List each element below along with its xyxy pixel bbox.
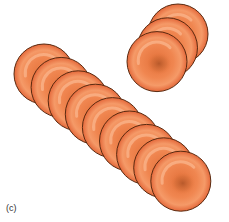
- short-rouleaux-stack: [127, 4, 208, 92]
- center-dimple: [170, 172, 195, 195]
- red-blood-cell: [151, 151, 211, 211]
- rouleaux-illustration: [0, 0, 229, 222]
- center-dimple: [146, 52, 171, 75]
- red-blood-cell: [127, 32, 187, 92]
- panel-label: (c): [6, 203, 17, 213]
